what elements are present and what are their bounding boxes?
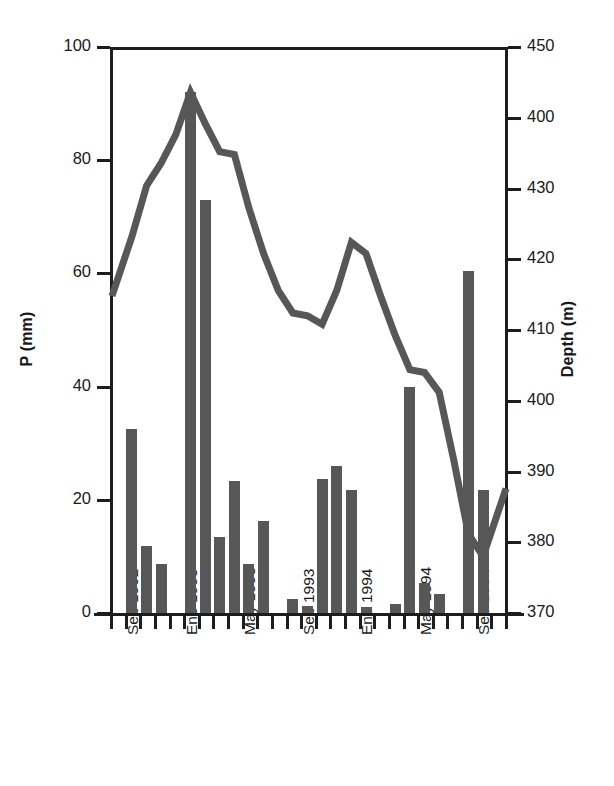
precipitation-depth-chart: P (mm) Depth (m) 02040608010045040043042… [0,0,614,786]
depth-line-layer [0,0,614,786]
depth-line [112,92,506,556]
